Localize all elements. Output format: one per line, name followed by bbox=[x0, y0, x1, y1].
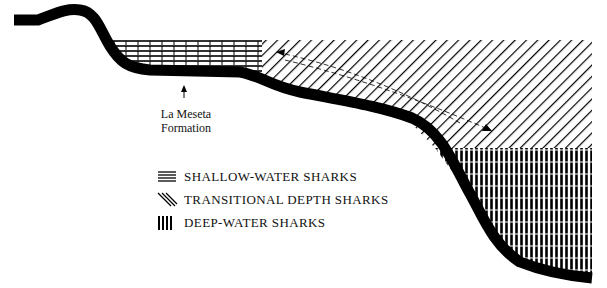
formation-annotation: La Meseta Formation bbox=[146, 107, 226, 135]
formation-label-line2: Formation bbox=[146, 121, 226, 135]
deep-swatch-icon bbox=[159, 216, 171, 230]
legend-item-shallow: SHALLOW-WATER SHARKS bbox=[184, 169, 357, 185]
formation-label-line1: La Meseta bbox=[146, 107, 226, 121]
legend-swatches bbox=[158, 172, 177, 230]
formation-pointer-arrow-icon bbox=[181, 85, 187, 98]
legend-item-deep: DEEP-WATER SHARKS bbox=[184, 215, 326, 231]
legend-label-deep: DEEP-WATER SHARKS bbox=[184, 215, 326, 231]
shallow-swatch-icon bbox=[158, 172, 176, 181]
legend-label-shallow: SHALLOW-WATER SHARKS bbox=[184, 169, 357, 185]
legend-label-transitional: TRANSITIONAL DEPTH SHARKS bbox=[184, 192, 389, 208]
transitional-swatch-icon bbox=[158, 193, 177, 206]
cross-section-diagram bbox=[0, 0, 607, 288]
legend-item-transitional: TRANSITIONAL DEPTH SHARKS bbox=[184, 192, 389, 208]
